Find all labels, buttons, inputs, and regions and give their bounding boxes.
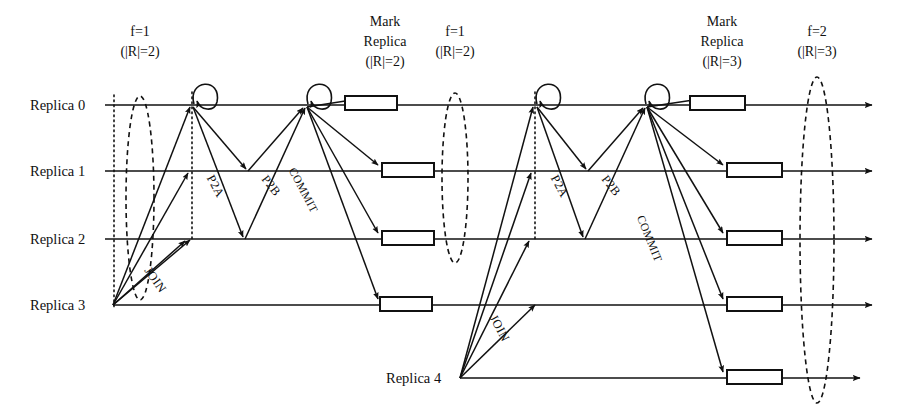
dotted-verticals-group	[114, 92, 535, 307]
message-label-lbl-p2b-1: P2B	[259, 172, 284, 198]
lifeline-label-r4: Replica 4	[386, 370, 442, 386]
state-box-box-r1-b	[727, 163, 782, 177]
phase-annotation-ph2-line2: Replica	[364, 34, 408, 49]
message-arrow-p2b-2-r0-a	[588, 108, 643, 171]
phase-annotation-ph5-line1: f=2	[807, 24, 827, 39]
state-boxes-group	[345, 96, 782, 384]
message-label-lbl-p2b-2: P2B	[599, 172, 624, 198]
state-box-box-r0-a	[345, 96, 397, 110]
message-label-lbl-join-2: JOIN	[487, 312, 513, 344]
message-labels-group: JOINP2AP2BCOMMITJOINP2AP2BCOMMIT	[141, 166, 664, 344]
lifeline-label-r1: Replica 1	[30, 163, 85, 179]
lifeline-label-r2: Replica 2	[30, 231, 85, 247]
message-arrow-p2a-2-r1	[537, 107, 586, 169]
state-box-box-r4-b	[727, 370, 782, 384]
phase-annotations-group: f=1(|R|=2)MarkReplica(|R|=2)f=1(|R|=2)Ma…	[120, 14, 837, 70]
phase-annotation-ph4-line2: Replica	[701, 34, 745, 49]
phase-annotation-ph4-line3: (|R|=3)	[702, 54, 742, 70]
cut-ellipse-cut2	[442, 93, 468, 263]
state-box-box-r0-b	[690, 96, 745, 110]
diagram-canvas: Replica 0Replica 1Replica 2Replica 3Repl…	[0, 0, 907, 410]
message-label-lbl-p2a-1: P2A	[204, 173, 227, 200]
phase-annotation-ph1-line1: f=1	[130, 24, 150, 39]
consensus-sequence-diagram: Replica 0Replica 1Replica 2Replica 3Repl…	[0, 0, 907, 410]
message-label-lbl-commit-1: COMMIT	[287, 166, 321, 215]
message-arrow-p2b-1-r0-a	[248, 108, 303, 171]
phase-annotation-ph5-line2: (|R|=3)	[797, 44, 837, 60]
cut-ellipse-cut3	[800, 77, 834, 403]
phase-annotation-ph2-line3: (|R|=2)	[365, 54, 405, 70]
state-box-box-r2-b	[727, 231, 782, 245]
state-box-box-r2-a	[382, 231, 434, 245]
message-arrow-commit-2-r2	[647, 107, 723, 233]
message-arrow-join-2-b	[460, 173, 531, 378]
phase-annotation-ph1-line2: (|R|=2)	[120, 44, 160, 60]
message-arrow-join-2-c	[460, 241, 529, 378]
lifeline-label-r3: Replica 3	[30, 297, 85, 313]
message-arrow-commit-1-r2	[307, 107, 378, 233]
lifeline-label-r0: Replica 0	[30, 97, 85, 113]
message-arrow-p2a-1-r2	[193, 107, 243, 237]
state-box-box-r3-a	[380, 297, 432, 311]
state-box-box-r3-b	[727, 297, 782, 311]
phase-annotation-ph4-line1: Mark	[707, 14, 737, 29]
phase-annotation-ph3-line2: (|R|=2)	[435, 44, 475, 60]
phase-annotation-ph3-line1: f=1	[445, 24, 465, 39]
state-box-box-r1-a	[382, 163, 434, 177]
message-arrow-p2a-1-r1	[193, 107, 246, 169]
phase-annotation-ph2-line1: Mark	[370, 14, 400, 29]
message-arrow-join-2-a	[460, 107, 533, 378]
